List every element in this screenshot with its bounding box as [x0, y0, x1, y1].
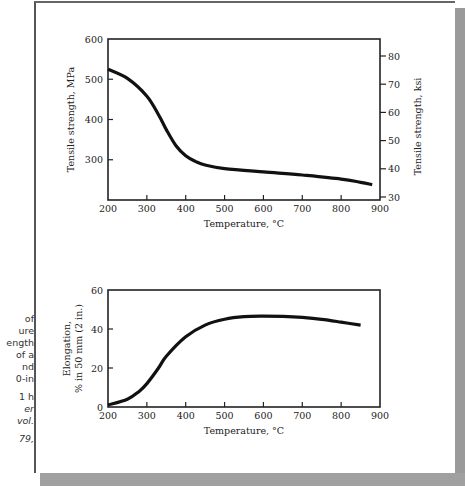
x-tick-label: 300: [138, 203, 156, 214]
x-axis-label: Temperature, °C: [204, 218, 284, 229]
y-tick-label: 500: [85, 74, 103, 85]
y-axis-label-line1: Elongation,: [61, 321, 72, 376]
y-tick-label: 20: [91, 363, 103, 374]
y-right-axis-label: Tensile strength, ksi: [412, 78, 423, 176]
y-right-tick-label: 40: [388, 163, 400, 174]
y-right-tick-label: 50: [388, 135, 400, 146]
x-tick-label: 800: [332, 410, 350, 421]
x-tick-label: 400: [177, 410, 195, 421]
y-axis-label: Tensile strength, MPa: [65, 67, 76, 173]
y-tick-label: 300: [85, 154, 103, 165]
x-tick-label: 900: [371, 203, 389, 214]
y-tick-label: 400: [85, 114, 103, 125]
x-tick-label: 700: [293, 410, 311, 421]
y-right-tick-label: 30: [388, 192, 400, 203]
y-right-tick-label: 60: [388, 107, 400, 118]
y-tick-label: 40: [91, 324, 103, 335]
y-tick-label: 0: [97, 402, 103, 413]
elongation-chart: 2003004005006007008009000204060Temperatu…: [61, 285, 389, 437]
data-curve: [108, 316, 361, 405]
y-tick-label: 600: [85, 34, 103, 45]
y-tick-label: 60: [91, 285, 103, 296]
figure-charts: 200300400500600700800900300400500600Temp…: [0, 0, 465, 491]
x-tick-label: 700: [293, 203, 311, 214]
x-tick-label: 600: [254, 203, 272, 214]
data-curve: [108, 69, 372, 185]
x-tick-label: 800: [332, 203, 350, 214]
x-tick-label: 300: [138, 410, 156, 421]
plot-frame: [108, 290, 380, 407]
y-right-tick-label: 80: [388, 51, 400, 62]
tensile-strength-chart: 200300400500600700800900300400500600Temp…: [65, 34, 423, 230]
plot-frame: [108, 39, 380, 200]
x-tick-label: 500: [216, 203, 234, 214]
y-right-tick-label: 70: [388, 79, 400, 90]
x-tick-label: 200: [99, 203, 117, 214]
x-tick-label: 600: [254, 410, 272, 421]
x-tick-label: 900: [371, 410, 389, 421]
x-tick-label: 500: [216, 410, 234, 421]
y-axis-label-line2: % in 50 mm (2 in.): [73, 304, 84, 393]
x-axis-label: Temperature, °C: [204, 425, 284, 436]
x-tick-label: 400: [177, 203, 195, 214]
